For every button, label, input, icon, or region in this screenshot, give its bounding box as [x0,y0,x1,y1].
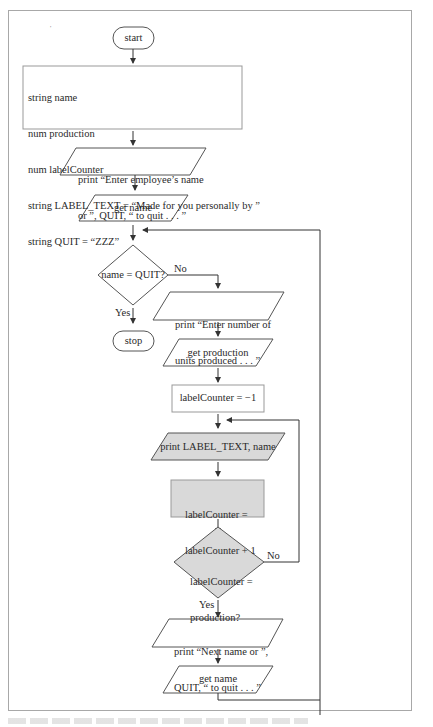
init-counter-label: labelCounter = −1 [172,392,264,404]
count-yes-label: Yes [199,599,214,610]
get-name-2-label: get name [168,673,268,685]
stop-label: stop [113,335,154,347]
prompt-name-line: print “Enter employee’s name [78,174,204,186]
get-production-label: get production [168,347,268,359]
count-no-label: No [267,550,280,561]
decision-quit-label: name = QUIT? [98,269,168,281]
declaration-line: string name [28,92,260,104]
start-label: start [113,32,154,44]
declaration-line: num production [28,128,260,140]
increment-line: labelCounter = [185,509,256,521]
get-name-label: get name [83,202,183,214]
quit-no-label: No [174,263,187,274]
caption-cutoff [8,718,308,724]
declaration-line: string QUIT = “ZZZ” [28,236,260,248]
prompt-next-text: print “Next name or ”, QUIT, “ to quit .… [174,622,268,706]
quit-yes-label: Yes [115,307,130,318]
prompt-next-line: print “Next name or ”, [174,646,268,658]
prompt-name-text: print “Enter employee’s name or ”, QUIT,… [78,150,204,234]
decision-count-line: labelCounter = [190,576,253,588]
prompt-units-text: print “Enter number of units produced . … [175,295,271,379]
print-label-text: print LABEL_TEXT, name [158,441,278,453]
prompt-units-line: print “Enter number of [175,319,271,331]
